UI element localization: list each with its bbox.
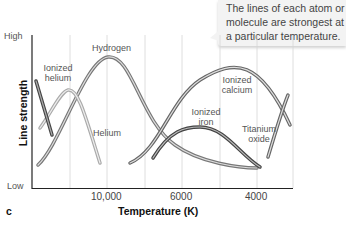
x-tick-10000: 10,000 [91, 191, 122, 202]
label-titanium-oxide: Titaniumoxide [236, 124, 282, 144]
x-tick-4000: 4000 [245, 191, 267, 202]
y-tick-low: Low [7, 181, 24, 191]
label-ionized-iron: Ionizediron [186, 107, 226, 127]
label-ionized-helium: Ionizedhelium [38, 63, 78, 83]
label-helium: Helium [93, 128, 121, 138]
label-ionized-helium-text: Ionizedhelium [43, 63, 72, 83]
x-axis-title: Temperature (K) [118, 205, 198, 217]
y-tick-high: High [4, 31, 23, 41]
label-hydrogen: Hydrogen [92, 43, 131, 53]
y-axis-title: Line strength [17, 78, 29, 148]
x-tick-6000: 6000 [170, 191, 192, 202]
label-ionized-calcium: Ionizedcalcium [214, 75, 260, 95]
panel-label: c [6, 205, 12, 217]
